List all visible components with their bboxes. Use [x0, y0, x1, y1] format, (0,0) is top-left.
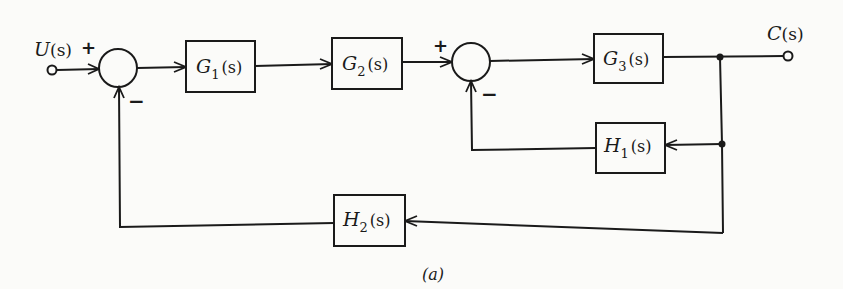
sum1-plus-sign: +	[81, 37, 96, 58]
input-label: U(s)	[34, 38, 72, 60]
input-terminal	[48, 66, 57, 75]
wire-sum1-g1	[137, 67, 186, 68]
sum2-plus-sign: +	[433, 35, 448, 56]
summing-junction-2	[452, 43, 490, 81]
wire-input-sum1	[57, 69, 99, 70]
wire-trunk-h1	[665, 144, 722, 145]
wire-trunk-h2	[405, 221, 723, 233]
sum2-minus-sign: −	[481, 82, 498, 106]
wire-g1-g2	[255, 64, 332, 66]
block-diagram: U(s) + − G1(s) G2(s) + − G3(s) C(s) H1(s…	[0, 0, 843, 289]
figure-caption: (a)	[422, 265, 444, 284]
output-terminal	[784, 52, 793, 61]
summing-junction-1	[99, 49, 137, 87]
wire-h2-sum1	[119, 87, 334, 227]
wire-g3-output	[663, 56, 784, 57]
wire-sum2-g3	[490, 59, 594, 61]
sum1-minus-sign: −	[128, 89, 145, 113]
output-label: C(s)	[767, 22, 804, 44]
